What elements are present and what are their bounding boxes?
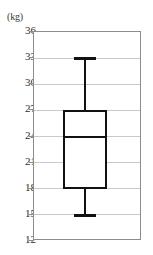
quartile-box: [63, 110, 107, 188]
upper-whisker-line: [84, 58, 86, 110]
lower-whisker-cap: [74, 214, 96, 217]
lower-whisker-line: [84, 189, 86, 215]
box-whisker-glyph: [34, 32, 140, 239]
plot-area-frame: [33, 31, 141, 240]
median-line: [63, 136, 107, 138]
upper-whisker-cap: [74, 57, 96, 60]
y-axis-tick-mark: [29, 240, 34, 241]
y-axis-unit-label: (kg): [7, 11, 23, 22]
boxplot-chart: (kg) 363330272421181512: [0, 0, 153, 255]
